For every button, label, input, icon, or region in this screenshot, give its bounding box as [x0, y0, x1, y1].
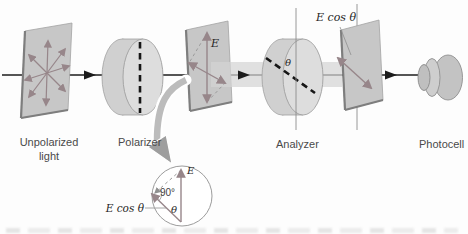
ray-arrowhead-3	[385, 71, 397, 80]
inset-e-cos-theta-label: E cos θ	[99, 201, 144, 215]
analyzer-disc	[262, 39, 323, 115]
ray-arrowhead-1	[84, 71, 96, 80]
inset-e-label: E	[187, 164, 194, 178]
photocell-device	[418, 55, 463, 100]
unpolarized-light-plane	[21, 23, 72, 118]
polarizer-disc	[102, 39, 163, 115]
inset-detail	[145, 166, 212, 226]
transmitted-light-plane	[338, 20, 383, 110]
e-field-label: E	[211, 37, 219, 51]
diagram-canvas	[0, 0, 468, 234]
e-cos-theta-top-label: E cos θ	[316, 11, 356, 25]
analyzer-label: Analyzer	[276, 137, 319, 151]
cropped-caption-remnant	[6, 228, 458, 233]
analyzer-theta-label: θ	[285, 56, 291, 70]
inset-theta-label: θ	[171, 203, 177, 217]
unpolarized-light-label: Unpolarized light	[9, 135, 89, 163]
photocell-label: Photocell	[419, 137, 464, 151]
polarization-diagram: Unpolarized light Polarizer Analyzer Pho…	[0, 0, 468, 234]
polarizer-label: Polarizer	[118, 135, 161, 149]
inset-right-angle-label: 90°	[160, 186, 175, 200]
